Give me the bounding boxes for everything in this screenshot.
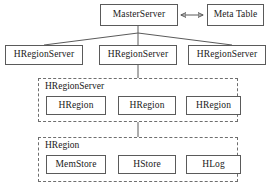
region-server-node-2[interactable]: HRegionServer (99, 45, 177, 65)
region-server-node-3[interactable]: HRegionServer (188, 45, 266, 65)
region-server-label: HRegionServer (14, 50, 74, 60)
hlog-label: HLog (202, 160, 225, 170)
region-group: HRegion MemStore HStore HLog (38, 137, 238, 182)
region-label: HRegion (196, 101, 231, 111)
meta-table-label: Meta Table (214, 10, 258, 20)
hstore-node[interactable]: HStore (118, 155, 176, 174)
region-server-node-1[interactable]: HRegionServer (5, 45, 83, 65)
region-server-group: HRegionServer HRegion HRegion HRegion (38, 78, 238, 122)
region-label: HRegion (58, 101, 93, 111)
region-server-group-label: HRegionServer (45, 82, 104, 92)
region-node-2[interactable]: HRegion (118, 96, 176, 115)
memstore-label: MemStore (56, 160, 97, 170)
region-node-1[interactable]: HRegion (46, 96, 106, 115)
region-server-label: HRegionServer (197, 50, 257, 60)
architecture-diagram: MasterServer Meta Table HRegionServer HR… (0, 0, 269, 189)
region-group-label: HRegion (45, 141, 79, 151)
hstore-label: HStore (133, 160, 161, 170)
master-server-label: MasterServer (113, 10, 165, 20)
meta-table-node[interactable]: Meta Table (207, 4, 264, 26)
region-label: HRegion (129, 101, 164, 111)
region-node-3[interactable]: HRegion (186, 96, 241, 115)
region-server-label: HRegionServer (108, 50, 168, 60)
memstore-node[interactable]: MemStore (46, 155, 106, 174)
master-server-node[interactable]: MasterServer (100, 4, 178, 26)
hlog-node[interactable]: HLog (186, 155, 241, 174)
master-to-regionservers-lines (44, 26, 232, 45)
